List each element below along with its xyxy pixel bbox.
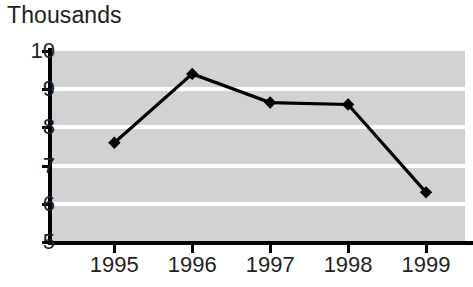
y-axis-tick-label: 8: [43, 116, 55, 138]
gridline: [52, 164, 465, 168]
y-axis-tick-label: 6: [43, 193, 55, 215]
y-axis-tick-label: 7: [43, 155, 55, 177]
chart-title: Thousands: [7, 2, 122, 29]
gridline: [52, 87, 465, 91]
x-axis-tick-label: 1996: [168, 254, 217, 276]
y-axis-tick-label: 10: [31, 40, 55, 62]
x-axis-tick-label: 1997: [246, 254, 295, 276]
y-axis-tick-label: 5: [43, 231, 55, 253]
line-chart: Thousands 5678910 19951996199719981999: [0, 0, 473, 287]
gridline: [52, 202, 465, 206]
gridline: [52, 125, 465, 129]
plot-area: [52, 51, 465, 242]
y-axis-tick-label: 9: [43, 78, 55, 100]
x-axis-line: [48, 241, 473, 245]
x-axis-tick-label: 1999: [402, 254, 451, 276]
gridlines: [52, 51, 465, 242]
x-axis-tick-label: 1998: [324, 254, 373, 276]
x-axis-tick-label: 1995: [90, 254, 139, 276]
